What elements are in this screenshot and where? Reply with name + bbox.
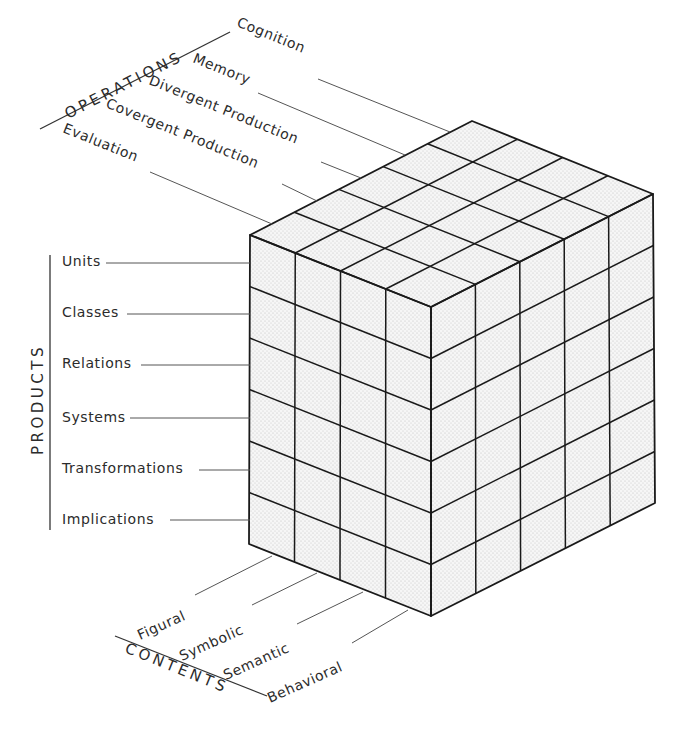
leader-line [252,573,317,605]
product-label-relations: Relations [62,355,250,371]
leader-line [352,610,408,643]
operation-label-evaluation: Evaluation [61,120,272,224]
content-label-figural: Figural [135,556,272,643]
content-label-behavioral: Behavioral [265,610,408,706]
leader-line [150,172,272,224]
product-label-systems: Systems [62,409,250,425]
product-label-classes: Classes [62,304,250,320]
operation-label: Cognition [235,14,308,56]
product-label: Implications [62,511,154,527]
leader-line [321,162,361,178]
product-label: Relations [62,355,132,371]
content-label: Behavioral [265,658,345,705]
operation-label: Evaluation [61,120,141,165]
leader-line [318,79,450,132]
product-label: Transformations [61,460,183,476]
content-label: Figural [135,607,188,642]
operation-label-cognition: Cognition [235,14,450,132]
leader-line [282,184,317,201]
product-label: Units [62,253,101,269]
product-label: Systems [62,409,126,425]
products-title: PRODUCTS [29,344,47,455]
operation-label: Memory [191,50,253,88]
product-label-units: Units [62,253,250,269]
soi-cube-diagram: OPERATIONS Cognition Memory Divergent Pr… [0,0,684,732]
product-label: Classes [62,304,119,320]
product-label-implications: Implications [62,511,250,527]
leader-line [297,592,363,624]
content-label: Symbolic [177,621,246,663]
content-label: Semantic [221,639,292,682]
product-label-transformations: Transformations [61,460,250,476]
leader-line [195,556,272,595]
content-label-symbolic: Symbolic [177,573,317,664]
